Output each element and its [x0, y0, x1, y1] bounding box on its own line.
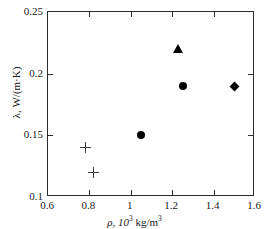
plot-area — [47, 11, 254, 196]
y-tick-left — [48, 74, 53, 75]
x-tick-label: 1.2 — [151, 199, 191, 211]
x-axis-title: ρ, 103 kg/m3 — [0, 212, 269, 229]
x-axis-title-prefix: ρ, 10 — [107, 216, 129, 228]
x-tick-top — [89, 12, 90, 17]
x-tick-label: 1.6 — [234, 199, 269, 211]
x-tick-top — [172, 12, 173, 17]
x-axis-title-mid: kg/m — [133, 216, 158, 228]
data-point-circle — [137, 131, 145, 139]
data-point-plus — [80, 142, 91, 153]
x-tick-label: 0.8 — [68, 199, 108, 211]
x-tick-top — [131, 12, 132, 17]
x-tick-bottom — [214, 190, 215, 195]
x-axis-title-exponent-2: 3 — [158, 214, 162, 223]
y-tick-label: 0.15 — [0, 128, 43, 140]
x-tick-bottom — [172, 190, 173, 195]
data-point-circle — [179, 82, 187, 90]
x-tick-bottom — [89, 190, 90, 195]
x-tick-top — [214, 12, 215, 17]
x-tick-label: 1.4 — [193, 199, 233, 211]
y-tick-right — [248, 135, 253, 136]
data-point-plus — [88, 167, 99, 178]
x-tick-label: 1 — [110, 199, 150, 211]
y-tick-label: 0.25 — [0, 5, 43, 17]
y-tick-label: 0.1 — [0, 190, 43, 202]
scatter-chart-figure: ρ, 103 kg/m3 λ, W/(m·K) 0.60.811.21.41.6… — [0, 0, 269, 229]
y-tick-left — [48, 135, 53, 136]
y-tick-right — [248, 74, 253, 75]
x-tick-bottom — [131, 190, 132, 195]
data-point-diamond — [229, 81, 239, 91]
data-point-triangle — [173, 44, 183, 53]
y-tick-label: 0.2 — [0, 67, 43, 79]
